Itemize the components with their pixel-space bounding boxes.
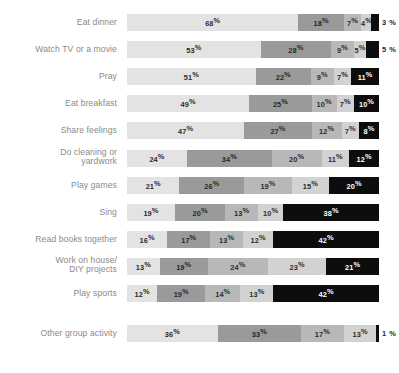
percent-sign: % bbox=[189, 97, 196, 106]
percent-sign: % bbox=[367, 97, 374, 106]
bar-segment: 13% bbox=[225, 204, 258, 221]
bar-segment: 13% bbox=[344, 325, 377, 342]
segment-value-label: 13% bbox=[353, 328, 368, 339]
segment-value-label: 12% bbox=[356, 153, 371, 164]
segment-value-label: 12% bbox=[319, 125, 334, 136]
bar-segment: 22% bbox=[256, 68, 311, 85]
segment-value-label: 23% bbox=[290, 261, 305, 272]
percent-sign: % bbox=[148, 233, 155, 242]
segment-value-label: 7% bbox=[337, 71, 348, 82]
percent-sign: % bbox=[349, 124, 356, 133]
stacked-bar: 68%18%7%4%3% bbox=[127, 14, 379, 31]
category-label: Other group activity bbox=[0, 329, 117, 339]
bar-segment: 12% bbox=[312, 122, 342, 139]
chart-row: Share feelings47%27%12%7%8% bbox=[0, 122, 399, 139]
segment-value-label: 19% bbox=[176, 261, 191, 272]
bar-segment: 19% bbox=[157, 285, 205, 302]
segment-value-label: 27% bbox=[270, 125, 285, 136]
percent-sign: % bbox=[353, 260, 360, 269]
percent-sign: % bbox=[144, 260, 151, 269]
segment-value-label: 42% bbox=[318, 288, 333, 299]
percent-sign: % bbox=[281, 97, 288, 106]
bar-segment: 7% bbox=[337, 95, 354, 112]
segment-value-label: 42% bbox=[318, 234, 333, 245]
bar-segment: 51% bbox=[127, 68, 256, 85]
category-label: Read books together bbox=[0, 235, 117, 245]
percent-sign: % bbox=[230, 152, 237, 161]
percent-sign: % bbox=[239, 260, 246, 269]
category-label: Work on house/ DIY projects bbox=[0, 256, 117, 275]
category-label: Eat breakfast bbox=[0, 99, 117, 109]
percent-sign: % bbox=[258, 287, 265, 296]
stacked-bar: 19%20%13%10%38% bbox=[127, 204, 379, 221]
percent-sign: % bbox=[279, 124, 286, 133]
percent-sign: % bbox=[323, 327, 330, 336]
segment-value-label: 49% bbox=[181, 98, 196, 109]
bar-segment: 16% bbox=[127, 231, 167, 248]
stacked-bar: 16%17%13%12%42% bbox=[127, 231, 379, 248]
bar-segment: 7% bbox=[334, 68, 352, 85]
percent-sign: % bbox=[298, 152, 305, 161]
bar-segment: 12% bbox=[243, 231, 273, 248]
chart-row: Work on house/ DIY projects13%19%24%23%2… bbox=[0, 258, 399, 275]
segment-value-label: 5% bbox=[382, 46, 386, 53]
segment-value-label: 9% bbox=[337, 44, 348, 55]
percent-sign: % bbox=[201, 206, 208, 215]
segment-value-label: 11% bbox=[328, 153, 343, 164]
bar-segment: 25% bbox=[249, 95, 311, 112]
percent-sign: % bbox=[190, 233, 197, 242]
segment-value-label: 53% bbox=[186, 44, 201, 55]
bar-segment: 68% bbox=[127, 14, 298, 31]
chart-row: Sing19%20%13%10%38% bbox=[0, 204, 399, 221]
segment-value-label: 10% bbox=[317, 98, 332, 109]
bar-segment: 49% bbox=[127, 95, 249, 112]
segment-value-label: 51% bbox=[184, 71, 199, 82]
percent-sign: % bbox=[152, 206, 159, 215]
bar-segment: 3% bbox=[371, 14, 379, 31]
bar-segment: 4% bbox=[361, 14, 371, 31]
percent-sign: % bbox=[298, 260, 305, 269]
percent-sign: % bbox=[260, 327, 267, 336]
bar-segment: 10% bbox=[354, 95, 379, 112]
bar-segment: 42% bbox=[273, 285, 379, 302]
bar-segment: 5% bbox=[366, 41, 379, 58]
segment-value-label: 20% bbox=[346, 180, 361, 191]
segment-value-label: 47% bbox=[178, 125, 193, 136]
percent-sign: % bbox=[389, 330, 396, 337]
percent-sign: % bbox=[344, 97, 351, 106]
bar-segment: 20% bbox=[272, 150, 322, 167]
category-label: Pray bbox=[0, 72, 117, 82]
segment-value-label: 12% bbox=[135, 288, 150, 299]
segment-value-label: 33% bbox=[252, 328, 267, 339]
percent-sign: % bbox=[284, 70, 291, 79]
segment-value-label: 24% bbox=[149, 153, 164, 164]
category-label: Share feelings bbox=[0, 126, 117, 136]
category-label: Eat dinner bbox=[0, 18, 117, 28]
percent-sign: % bbox=[214, 16, 221, 25]
category-label: Watch TV or a movie bbox=[0, 45, 117, 55]
bar-segment: 17% bbox=[301, 325, 344, 342]
bar-segment: 11% bbox=[322, 150, 349, 167]
bar-segment: 33% bbox=[218, 325, 301, 342]
bar-segment: 36% bbox=[127, 325, 218, 342]
bar-segment: 14% bbox=[205, 285, 240, 302]
segment-value-label: 16% bbox=[140, 234, 155, 245]
percent-sign: % bbox=[185, 260, 192, 269]
chart-row: Play sports12%19%14%13%42% bbox=[0, 285, 399, 302]
percent-sign: % bbox=[143, 287, 150, 296]
bar-segment: 24% bbox=[127, 150, 187, 167]
bar-segment: 13% bbox=[210, 231, 243, 248]
segment-value-label: 4% bbox=[361, 17, 372, 28]
segment-value-label: 7% bbox=[340, 98, 351, 109]
chart-row: Watch TV or a movie53%28%9%5%5% bbox=[0, 41, 399, 58]
percent-sign: % bbox=[325, 97, 332, 106]
stacked-bar: 51%22%9%7%11% bbox=[127, 68, 379, 85]
bar-segment: 7% bbox=[342, 122, 359, 139]
segment-value-label: 17% bbox=[315, 328, 330, 339]
segment-value-label: 28% bbox=[288, 44, 303, 55]
percent-sign: % bbox=[297, 43, 304, 52]
bar-segment: 13% bbox=[127, 258, 160, 275]
percent-sign: % bbox=[341, 70, 348, 79]
segment-value-label: 7% bbox=[347, 17, 358, 28]
bar-segment: 34% bbox=[187, 150, 272, 167]
